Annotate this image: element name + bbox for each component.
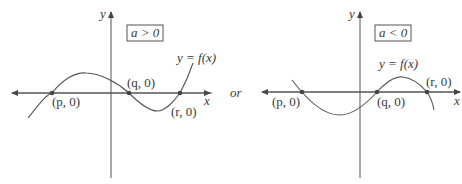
x-axis-label: x xyxy=(203,93,210,108)
root-point-p xyxy=(300,90,305,95)
separator-or: or xyxy=(230,85,243,100)
point-label-r: (r, 0) xyxy=(171,104,196,119)
point-label-p: (p, 0) xyxy=(272,94,300,109)
root-point-r xyxy=(425,90,430,95)
condition-label: a < 0 xyxy=(379,25,408,40)
point-label-q: (q, 0) xyxy=(377,94,405,109)
x-axis-label: x xyxy=(453,93,460,108)
root-point-r xyxy=(178,91,183,96)
function-label: y = f(x) xyxy=(377,56,418,71)
graph-a-negative: a < 0 y x y = f(x) (p, 0) (q, 0) (r, 0) xyxy=(262,6,460,178)
root-point-q xyxy=(127,91,132,96)
y-axis-label: y xyxy=(98,6,106,21)
condition-label: a > 0 xyxy=(131,25,160,40)
y-axis-label: y xyxy=(347,6,355,21)
cubic-curve xyxy=(292,77,434,115)
graph-a-positive: a > 0 y x y = f(x) (p, 0) (q, 0) (r, 0) xyxy=(12,6,216,178)
point-label-p: (p, 0) xyxy=(52,94,80,109)
point-label-r: (r, 0) xyxy=(426,74,451,89)
cubic-graphs-diagram: a > 0 y x y = f(x) (p, 0) (q, 0) (r, 0) … xyxy=(0,0,462,184)
function-label: y = f(x) xyxy=(175,50,216,65)
point-label-q: (q, 0) xyxy=(127,75,155,90)
